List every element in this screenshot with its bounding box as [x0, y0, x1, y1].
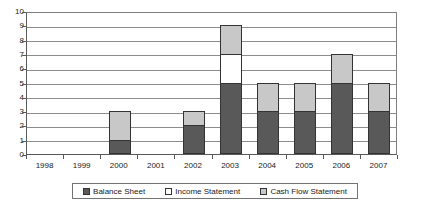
bar-segment	[220, 83, 242, 155]
x-tick-mark	[360, 155, 361, 159]
y-tick-label: 8	[2, 37, 24, 45]
bar-segment	[294, 83, 316, 112]
x-tick-mark	[174, 155, 175, 159]
legend-item[interactable]: Cash Flow Statement	[260, 187, 346, 196]
y-tick-label: 6	[2, 65, 24, 73]
legend-label: Income Statement	[175, 187, 240, 196]
legend-label: Balance Sheet	[93, 187, 145, 196]
bars-layer	[27, 13, 396, 154]
y-axis: 012345678910	[0, 12, 24, 155]
x-tick-label-2007: 2007	[370, 161, 388, 170]
bar-segment	[220, 54, 242, 83]
plot-area	[26, 12, 397, 155]
bar-segment	[257, 83, 279, 112]
bar-segment	[183, 111, 205, 125]
y-tick-label: 1	[2, 137, 24, 145]
bar-segment	[109, 111, 131, 140]
x-tick-mark	[137, 155, 138, 159]
bar-segment	[257, 111, 279, 154]
x-tick-label-1998: 1998	[36, 161, 54, 170]
y-tick-label: 9	[2, 22, 24, 30]
y-tick-label: 0	[2, 151, 24, 159]
y-tick-label: 2	[2, 122, 24, 130]
legend-swatch-icon	[165, 188, 172, 195]
legend-label: Cash Flow Statement	[270, 187, 346, 196]
x-tick-label-2003: 2003	[221, 161, 239, 170]
legend-item[interactable]: Income Statement	[165, 187, 240, 196]
x-tick-mark	[26, 155, 27, 159]
bar-group	[257, 83, 279, 154]
x-tick-mark	[63, 155, 64, 159]
y-tick-label: 4	[2, 94, 24, 102]
x-tick-label-2002: 2002	[184, 161, 202, 170]
x-tick-label-2005: 2005	[295, 161, 313, 170]
bar-segment	[294, 111, 316, 154]
bar-segment	[368, 83, 390, 112]
x-tick-mark	[323, 155, 324, 159]
legend-swatch-icon	[83, 188, 90, 195]
y-tick-label: 7	[2, 51, 24, 59]
bar-group	[109, 111, 131, 154]
bar-group	[294, 83, 316, 154]
x-tick-mark	[286, 155, 287, 159]
x-tick-label-2006: 2006	[332, 161, 350, 170]
legend-swatch-icon	[260, 188, 267, 195]
y-tick-label: 3	[2, 108, 24, 116]
stacked-bar-chart: 012345678910 199819992000200120022003200…	[0, 0, 428, 206]
x-tick-mark	[212, 155, 213, 159]
bar-segment	[183, 125, 205, 154]
x-tick-label-2001: 2001	[147, 161, 165, 170]
bar-segment	[109, 140, 131, 154]
x-axis: 1998199920002001200220032004200520062007	[26, 155, 397, 175]
x-tick-label-1999: 1999	[73, 161, 91, 170]
bar-group	[220, 25, 242, 154]
y-tick-label: 5	[2, 80, 24, 88]
x-tick-mark	[249, 155, 250, 159]
y-tick-label: 10	[2, 8, 24, 16]
bar-segment	[368, 111, 390, 154]
bar-segment	[220, 25, 242, 54]
chart-legend: Balance SheetIncome StatementCash Flow S…	[72, 183, 358, 199]
bar-group	[368, 83, 390, 154]
bar-segment	[331, 83, 353, 155]
x-tick-label-2000: 2000	[110, 161, 128, 170]
x-tick-mark	[100, 155, 101, 159]
x-tick-mark	[397, 155, 398, 159]
bar-group	[183, 111, 205, 154]
legend-item[interactable]: Balance Sheet	[83, 187, 145, 196]
bar-segment	[331, 54, 353, 83]
x-tick-label-2004: 2004	[258, 161, 276, 170]
bar-group	[331, 54, 353, 154]
